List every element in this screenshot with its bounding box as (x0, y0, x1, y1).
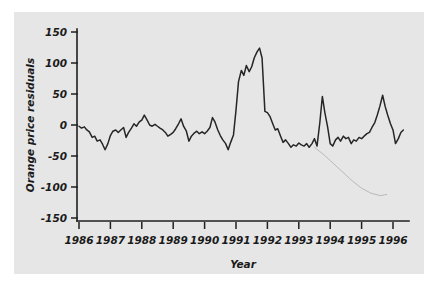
x-tick-label: 1990 (190, 234, 219, 246)
x-tick-label: 1995 (347, 234, 376, 246)
y-tick-label: 0 (60, 119, 67, 131)
x-tick-label: 1994 (316, 234, 345, 246)
x-axis-ticks: 1986198719881989199019911992199319941995… (64, 222, 407, 246)
orange-price-residuals-chart: 150100500-50-100-150 1986198719881989199… (0, 0, 437, 286)
x-tick-label: 1992 (253, 234, 282, 246)
y-tick-label: -50 (48, 150, 67, 162)
y-axis-ticks: 150100500-50-100-150 (41, 26, 78, 224)
y-tick-label: 100 (45, 57, 67, 69)
x-tick-label: 1996 (378, 234, 407, 246)
x-axis-title: Year (230, 258, 256, 270)
y-tick-label: -100 (41, 181, 67, 193)
trend-line-faint (315, 147, 387, 195)
x-tick-label: 1989 (159, 234, 188, 246)
y-axis-title: Orange price residuals (24, 58, 36, 192)
x-tick-label: 1991 (221, 234, 250, 246)
x-tick-label: 1993 (284, 234, 313, 246)
y-tick-label: 150 (45, 26, 67, 38)
y-tick-label: -150 (41, 212, 67, 224)
y-tick-label: 50 (52, 88, 67, 100)
x-tick-label: 1988 (127, 234, 156, 246)
residuals-series-line (79, 48, 403, 150)
x-tick-label: 1986 (64, 234, 93, 246)
x-tick-label: 1987 (96, 234, 126, 246)
